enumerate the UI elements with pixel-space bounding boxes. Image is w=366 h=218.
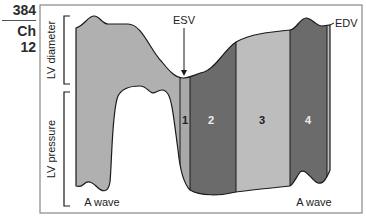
- phase-2-label: 2: [208, 114, 214, 126]
- a-wave-left-label: A wave: [84, 196, 119, 208]
- phase-1-label: 1: [182, 114, 188, 126]
- lv-diameter-label: LV diameter: [45, 20, 57, 79]
- esv-label: ESV: [173, 14, 196, 26]
- phase-4-region: [290, 10, 327, 200]
- edv-label: EDV: [335, 17, 358, 29]
- phase-3-label: 3: [259, 114, 265, 126]
- lv-diameter-pressure-figure: LV diameter LV pressure ESV EDV 1 2 3 4 …: [0, 0, 366, 218]
- phase-4-label: 4: [305, 114, 312, 126]
- a-wave-right-label: A wave: [296, 196, 331, 208]
- lv-pressure-label: LV pressure: [45, 120, 57, 179]
